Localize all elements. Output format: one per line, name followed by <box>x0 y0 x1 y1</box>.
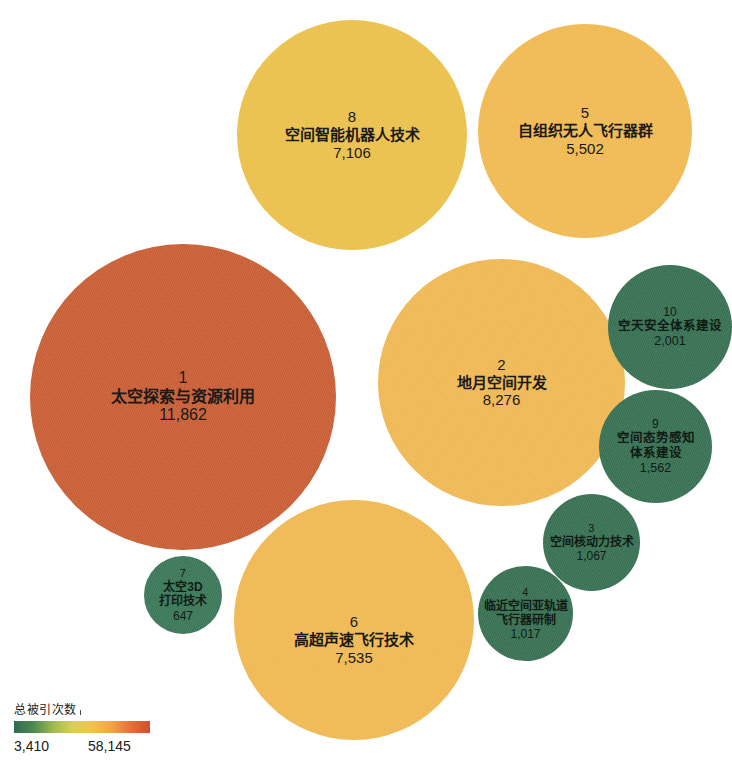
bubble-10-label: 空天安全体系建设 <box>618 319 722 334</box>
legend-scale: 3,410 58,145 <box>12 738 187 758</box>
bubble-10-text: 10 空天安全体系建设 2,001 <box>618 305 722 349</box>
bubble-2-label: 地月空间开发 <box>457 374 547 392</box>
bubble-4-text: 4 临近空间亚轨道 飞行器研制 1,017 <box>484 586 568 641</box>
bubble-4[interactable]: 4 临近空间亚轨道 飞行器研制 1,017 <box>478 566 573 661</box>
bubble-3-rank: 3 <box>588 522 594 535</box>
bubble-10-value: 2,001 <box>654 334 685 349</box>
bubble-layer: 8 空间智能机器人技术 7,106 5 自组织无人飞行器群 5,502 1 太空… <box>0 0 732 767</box>
bubble-10[interactable]: 10 空天安全体系建设 2,001 <box>608 265 732 389</box>
bubble-5-value: 5,502 <box>566 140 604 158</box>
bubble-8-value: 7,106 <box>333 144 371 162</box>
bubble-9-value: 1,562 <box>640 461 671 476</box>
bubble-3-label: 空间核动力技术 <box>550 535 634 549</box>
bubble-4-label: 临近空间亚轨道 飞行器研制 <box>484 599 568 627</box>
bubble-4-rank: 4 <box>522 586 528 599</box>
bubble-9[interactable]: 9 空间态势感知 体系建设 1,562 <box>599 390 712 503</box>
bubble-3[interactable]: 3 空间核动力技术 1,067 <box>543 494 640 591</box>
bubble-6-text: 6 高超声速飞行技术 7,535 <box>294 613 414 666</box>
legend: 总被引次数 3,410 58,145 <box>12 700 242 758</box>
legend-min-label: 3,410 <box>14 738 49 754</box>
bubble-chart: 8 空间智能机器人技术 7,106 5 自组织无人飞行器群 5,502 1 太空… <box>0 0 732 767</box>
legend-gradient-bar <box>14 721 150 733</box>
bubble-1[interactable]: 1 太空探索与资源利用 11,862 <box>30 244 336 550</box>
bubble-7-value: 647 <box>173 609 193 623</box>
bubble-7-label: 太空3D 打印技术 <box>159 580 207 608</box>
bubble-8-text: 8 空间智能机器人技术 7,106 <box>285 108 420 161</box>
legend-title: 总被引次数 <box>14 700 242 717</box>
bubble-9-text: 9 空间态势感知 体系建设 1,562 <box>617 417 695 475</box>
bubble-5[interactable]: 5 自组织无人飞行器群 5,502 <box>478 24 692 238</box>
bubble-7-rank: 7 <box>180 567 186 580</box>
bubble-8-label: 空间智能机器人技术 <box>285 126 420 144</box>
bubble-7[interactable]: 7 太空3D 打印技术 647 <box>144 556 222 634</box>
legend-max-label: 58,145 <box>88 738 131 754</box>
bubble-2-value: 8,276 <box>483 391 521 409</box>
bubble-6-value: 7,535 <box>335 649 373 667</box>
bubble-9-rank: 9 <box>652 417 659 431</box>
bubble-3-value: 1,067 <box>576 549 606 563</box>
bubble-5-label: 自组织无人飞行器群 <box>518 122 653 140</box>
bubble-6-rank: 6 <box>350 613 359 631</box>
legend-tick-mark <box>80 710 81 715</box>
bubble-6[interactable]: 6 高超声速飞行技术 7,535 <box>234 500 474 740</box>
bubble-6-label: 高超声速飞行技术 <box>294 631 414 649</box>
bubble-3-text: 3 空间核动力技术 1,067 <box>550 522 634 563</box>
bubble-8-rank: 8 <box>348 108 357 126</box>
bubble-7-text: 7 太空3D 打印技术 647 <box>159 567 207 622</box>
bubble-5-text: 5 自组织无人飞行器群 5,502 <box>518 104 653 157</box>
bubble-2-text: 2 地月空间开发 8,276 <box>457 356 547 409</box>
bubble-4-value: 1,017 <box>510 627 540 641</box>
bubble-1-label: 太空探索与资源利用 <box>111 388 255 407</box>
bubble-9-label: 空间态势感知 体系建设 <box>617 431 695 461</box>
bubble-1-rank: 1 <box>178 369 187 388</box>
bubble-2[interactable]: 2 地月空间开发 8,276 <box>378 259 625 506</box>
bubble-1-text: 1 太空探索与资源利用 11,862 <box>111 369 255 426</box>
bubble-10-rank: 10 <box>663 305 677 319</box>
bubble-8[interactable]: 8 空间智能机器人技术 7,106 <box>237 20 467 250</box>
bubble-2-rank: 2 <box>497 356 506 374</box>
bubble-1-value: 11,862 <box>159 406 207 425</box>
bubble-5-rank: 5 <box>581 104 590 122</box>
